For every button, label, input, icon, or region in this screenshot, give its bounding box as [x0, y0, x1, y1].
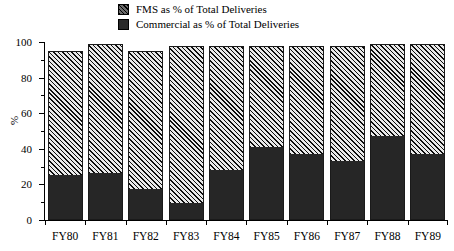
x-tick-fy83 [166, 220, 206, 226]
x-label-fy88: FY88 [367, 230, 407, 243]
x-tick-fy86 [287, 220, 327, 226]
segment-commercial-fy85 [250, 147, 283, 219]
x-axis-ticks [45, 220, 448, 226]
stacked-bar-fy82[interactable] [128, 51, 163, 220]
segment-fms-fy83 [170, 47, 203, 204]
stacked-bar-fy86[interactable] [289, 46, 324, 220]
segment-commercial-fy89 [411, 154, 444, 219]
segment-fms-fy80 [49, 52, 82, 175]
y-tick-label-80: 80 [21, 72, 32, 83]
solid-swatch-icon [118, 19, 129, 30]
y-tick-100: 100 [39, 42, 44, 43]
segment-fms-fy82 [129, 52, 162, 189]
x-label-fy83: FY83 [166, 230, 206, 243]
x-axis-labels: FY80 FY81 FY82 FY83 FY84 FY85 FY86 FY87 … [45, 230, 448, 243]
segment-commercial-fy80 [49, 175, 82, 219]
x-tick-fy84 [206, 220, 246, 226]
y-tick-20: 20 [39, 184, 44, 185]
x-tick-fy88 [367, 220, 407, 226]
stacked-bar-fy83[interactable] [169, 46, 204, 220]
legend-item-commercial-label: Commercial as % of Total Deliveries [136, 19, 299, 30]
segment-fms-fy88 [371, 45, 404, 137]
y-tick-80: 80 [39, 78, 44, 79]
legend-item-fms-label: FMS as % of Total Deliveries [136, 4, 267, 15]
x-tick-fy85 [246, 220, 286, 226]
x-label-fy82: FY82 [126, 230, 166, 243]
y-tick-label-40: 40 [21, 143, 32, 154]
segment-fms-fy81 [89, 45, 122, 173]
segment-commercial-fy82 [129, 189, 162, 219]
y-axis-title: % [8, 116, 20, 125]
y-tick-40: 40 [39, 149, 44, 150]
segment-commercial-fy86 [290, 154, 323, 219]
y-tick-minor-10 [41, 202, 44, 203]
segment-fms-fy85 [250, 47, 283, 147]
bar-slot-fy82 [126, 42, 166, 220]
x-label-fy81: FY81 [85, 230, 125, 243]
x-tick-fy82 [126, 220, 166, 226]
y-tick-60: 60 [39, 113, 44, 114]
y-tick-minor-30 [41, 167, 44, 168]
y-tick-label-100: 100 [16, 37, 33, 48]
bar-slot-fy89 [408, 42, 448, 220]
x-tick-fy81 [85, 220, 125, 226]
segment-fms-fy86 [290, 47, 323, 154]
segment-commercial-fy81 [89, 173, 122, 219]
x-label-fy80: FY80 [45, 230, 85, 243]
x-tick-fy80 [45, 220, 85, 226]
segment-fms-fy84 [210, 47, 243, 170]
y-tick-minor-90 [41, 60, 44, 61]
stacked-bar-fy87[interactable] [330, 46, 365, 220]
stacked-bar-fy81[interactable] [88, 44, 123, 220]
segment-commercial-fy87 [331, 161, 364, 219]
y-tick-label-20: 20 [21, 179, 32, 190]
bar-slot-fy87 [327, 42, 367, 220]
bar-slot-fy88 [367, 42, 407, 220]
stacked-bar-chart: FMS as % of Total Deliveries Commercial … [0, 0, 454, 251]
stacked-bar-fy80[interactable] [48, 51, 83, 220]
y-tick-0: 0 [39, 220, 44, 221]
chart-legend: FMS as % of Total Deliveries Commercial … [118, 3, 299, 31]
stacked-bar-fy88[interactable] [370, 44, 405, 220]
stacked-bar-fy89[interactable] [410, 44, 445, 220]
y-tick-minor-50 [41, 131, 44, 132]
bar-slot-fy86 [287, 42, 327, 220]
hatched-swatch-icon [118, 4, 129, 15]
x-tick-fy89 [408, 220, 448, 226]
segment-commercial-fy83 [170, 203, 203, 219]
segment-fms-fy89 [411, 45, 444, 154]
stacked-bar-fy85[interactable] [249, 46, 284, 220]
bar-slot-fy81 [85, 42, 125, 220]
plot-area: 100 80 60 40 20 0 [44, 42, 448, 220]
bar-slot-fy80 [45, 42, 85, 220]
x-tick-fy87 [327, 220, 367, 226]
x-label-fy86: FY86 [287, 230, 327, 243]
bar-slot-fy85 [246, 42, 286, 220]
segment-commercial-fy84 [210, 170, 243, 219]
x-label-fy85: FY85 [246, 230, 286, 243]
x-label-fy89: FY89 [408, 230, 448, 243]
x-label-fy87: FY87 [327, 230, 367, 243]
legend-item-fms: FMS as % of Total Deliveries [118, 3, 299, 16]
bar-series-container [45, 42, 448, 220]
bar-slot-fy84 [206, 42, 246, 220]
x-label-fy84: FY84 [206, 230, 246, 243]
bar-slot-fy83 [166, 42, 206, 220]
y-tick-label-0: 0 [27, 215, 33, 226]
legend-item-commercial: Commercial as % of Total Deliveries [118, 18, 299, 31]
stacked-bar-fy84[interactable] [209, 46, 244, 220]
y-tick-minor-70 [41, 95, 44, 96]
segment-fms-fy87 [331, 47, 364, 161]
segment-commercial-fy88 [371, 136, 404, 219]
y-tick-label-60: 60 [21, 108, 32, 119]
